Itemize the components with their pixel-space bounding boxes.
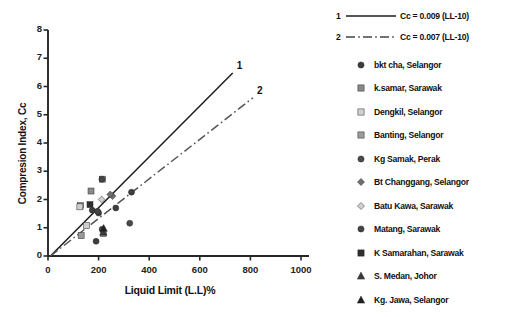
trendlines-layer xyxy=(51,73,253,256)
legend-item: k.samar, Sarawak xyxy=(348,82,442,95)
y-tick-value: 6 xyxy=(37,81,42,91)
legend-marker-circle-icon xyxy=(348,223,374,235)
x-tick-label: 200 xyxy=(82,264,116,275)
legend-line-number: 2 xyxy=(336,32,345,42)
trendline-endpoint-label-2: 2 xyxy=(257,85,263,96)
legend-marker-diamond-icon xyxy=(348,200,374,212)
legend-line-swatch-dash-dot xyxy=(345,32,397,42)
data-point xyxy=(128,189,134,195)
legend-item-label: K Samarahan, Sarawak xyxy=(374,248,464,258)
legend-item-label: Banting, Selangor xyxy=(374,130,443,140)
x-axis-title: Liquid Limit (L.L)% xyxy=(55,284,285,296)
data-point xyxy=(95,208,101,214)
y-tick-value: 1 xyxy=(37,222,42,232)
data-point xyxy=(127,220,133,226)
trendline-2 xyxy=(51,98,253,256)
series-points xyxy=(87,202,93,208)
y-axis-title: Compresion Index, Cc xyxy=(17,69,28,239)
legend: 1Cc = 0.009 (LL-10)2Cc = 0.007 (LL-10) b… xyxy=(330,0,510,317)
data-point xyxy=(113,205,119,211)
data-point xyxy=(83,222,89,228)
data-point xyxy=(77,204,83,210)
legend-marker-square-icon xyxy=(348,82,374,94)
legend-item: Bt Changgang, Selangor xyxy=(348,176,469,189)
legend-item-label: Kg Samak, Perak xyxy=(374,154,440,164)
trendline-endpoint-label-1: 1 xyxy=(237,60,243,71)
legend-line-swatch-solid xyxy=(345,11,397,21)
legend-marker-triangle-icon xyxy=(348,270,374,282)
data-point xyxy=(87,202,93,208)
y-tick-value: 0 xyxy=(37,250,42,260)
legend-marker-triangle-icon xyxy=(348,294,374,306)
legend-equation-row-1: 1Cc = 0.009 (LL-10) xyxy=(336,9,469,23)
y-tick-value: 4 xyxy=(37,137,42,147)
legend-item: Kg. Jawa, Selangor xyxy=(348,293,448,306)
legend-marker-square-icon xyxy=(348,106,374,118)
legend-line-number: 1 xyxy=(336,11,345,21)
plot-area: Compresion Index, Cc 12 012345678 020040… xyxy=(0,0,330,317)
legend-item-label: Batu Kawa, Sarawak xyxy=(374,201,453,211)
legend-item-label: bkt cha, Selangor xyxy=(374,60,441,70)
trendline-endpoint-labels: 12 xyxy=(237,60,263,96)
x-tick-label: 400 xyxy=(132,264,166,275)
legend-marker-diamond-icon xyxy=(348,176,374,188)
legend-item-label: Dengkil, Selangor xyxy=(374,107,442,117)
x-tick-label: 800 xyxy=(233,264,267,275)
legend-item: Kg Samak, Perak xyxy=(348,152,440,165)
y-tick-value: 5 xyxy=(37,109,42,119)
data-point xyxy=(93,238,99,244)
figure-scatter-compression-index: Compresion Index, Cc 12 012345678 020040… xyxy=(0,0,510,317)
legend-marker-circle-icon xyxy=(348,153,374,165)
legend-marker-square-icon xyxy=(348,247,374,259)
data-point xyxy=(89,207,95,213)
legend-marker-circle-icon xyxy=(348,59,374,71)
legend-item: S. Medan, Johor xyxy=(348,270,437,283)
y-tick-value: 2 xyxy=(37,194,42,204)
legend-equation-text: Cc = 0.009 (LL-10) xyxy=(400,11,469,21)
data-points-layer xyxy=(77,176,135,244)
legend-item: Matang, Sarawak xyxy=(348,223,440,236)
data-point xyxy=(88,188,94,194)
legend-item-label: S. Medan, Johor xyxy=(374,271,437,281)
legend-equation-row-2: 2Cc = 0.007 (LL-10) xyxy=(336,30,469,44)
legend-item: bkt cha, Selangor xyxy=(348,58,441,71)
trendline-1 xyxy=(51,73,233,256)
x-tick-label: 600 xyxy=(183,264,217,275)
y-tick-value: 8 xyxy=(37,24,42,34)
legend-equation-text: Cc = 0.007 (LL-10) xyxy=(400,32,469,42)
legend-item: K Samarahan, Sarawak xyxy=(348,246,464,259)
legend-marker-square-icon xyxy=(348,129,374,141)
legend-item: Batu Kawa, Sarawak xyxy=(348,199,453,212)
data-point xyxy=(78,233,84,239)
legend-item: Banting, Selangor xyxy=(348,129,443,142)
legend-item-label: Matang, Sarawak xyxy=(374,224,440,234)
legend-item-label: Kg. Jawa, Selangor xyxy=(374,295,448,305)
data-point xyxy=(99,176,105,182)
y-tick-value: 3 xyxy=(37,165,42,175)
legend-item-label: k.samar, Sarawak xyxy=(374,83,442,93)
legend-item: Dengkil, Selangor xyxy=(348,105,442,118)
y-tick-value: 7 xyxy=(37,52,42,62)
legend-item-label: Bt Changgang, Selangor xyxy=(374,177,469,187)
x-tick-label: 0 xyxy=(31,264,65,275)
x-tick-label: 1000 xyxy=(284,264,318,275)
